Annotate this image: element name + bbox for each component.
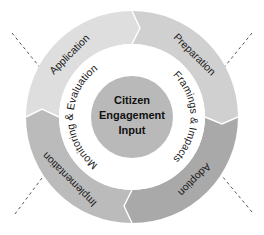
center-line-2: Engagement — [99, 109, 165, 121]
center-line-3: Input — [119, 124, 146, 136]
divider-top-left — [12, 33, 42, 70]
divider-bottom-left — [15, 178, 42, 214]
cycle-diagram: Application Preparation Adoption Impleme… — [0, 0, 264, 235]
center-line-1: Citizen — [114, 94, 150, 106]
divider-bottom-right — [222, 176, 252, 212]
divider-top-right — [222, 33, 252, 70]
